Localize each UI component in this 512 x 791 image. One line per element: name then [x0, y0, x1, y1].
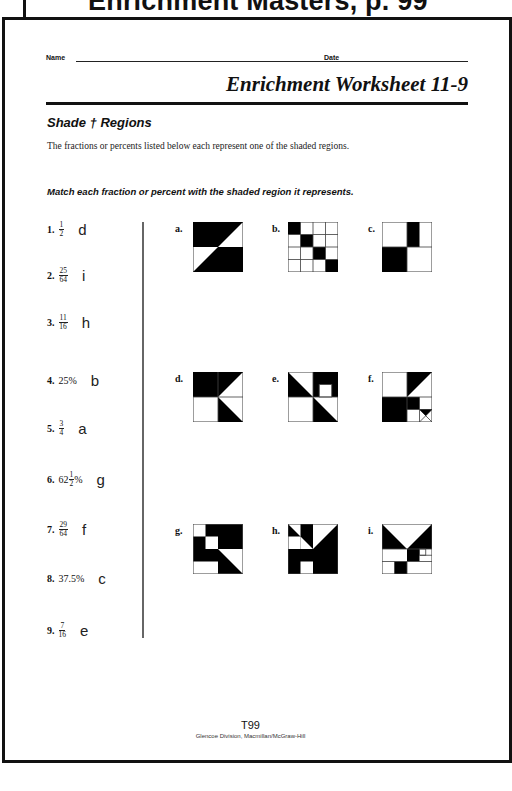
shaded-square-g [193, 524, 243, 574]
page-number: T99 [0, 719, 501, 731]
region-d: d. [175, 370, 255, 430]
problem-value: 2964 [59, 521, 69, 538]
region-f: f. [368, 370, 448, 430]
region-b: b. [272, 220, 352, 280]
problem-value: 6212% [59, 471, 83, 488]
publisher-credit: Glencoe Division, Macmillan/McGraw-Hill [0, 733, 501, 739]
region-e: e. [272, 370, 352, 430]
problem-item: 9. 716 e [47, 620, 88, 640]
shaded-square-i [382, 524, 432, 574]
fraction: 34 [59, 420, 65, 437]
fraction: 2564 [59, 267, 69, 284]
frame-tab-edge [23, 0, 26, 17]
answer: e [80, 622, 88, 639]
problem-value: 2564 [59, 267, 69, 284]
problem-number: 2. [47, 270, 55, 281]
name-label: Name [46, 54, 65, 61]
shaded-square-d [193, 372, 243, 422]
region-a: a. [175, 220, 255, 280]
problem-item: 1. 12 d [47, 219, 87, 239]
answer: g [97, 471, 105, 488]
problem-item: 4. 25% b [47, 370, 99, 390]
name-field-line[interactable] [76, 61, 360, 62]
problem-number: 5. [47, 423, 55, 434]
answer: i [82, 267, 85, 284]
section-title: Shade † Regions [47, 115, 152, 130]
date-label: Date [324, 54, 339, 61]
problem-item: 7. 2964 f [47, 519, 86, 539]
shaded-square-f [382, 372, 432, 422]
region-label: e. [272, 373, 279, 384]
problem-number: 4. [47, 375, 55, 386]
problem-value: 1116 [59, 314, 68, 331]
region-i: i. [368, 522, 448, 582]
problem-number: 3. [47, 317, 55, 328]
title-rule-divider [46, 102, 468, 105]
name-date-row: Name Date [46, 52, 468, 66]
answer: b [91, 372, 99, 389]
region-h: h. [272, 522, 352, 582]
fraction: 716 [59, 622, 67, 639]
shaded-square-h [288, 524, 338, 574]
problem-number: 9. [47, 625, 55, 636]
answer: a [78, 420, 86, 437]
problem-value: 37.5% [59, 573, 85, 584]
problem-number: 8. [47, 573, 55, 584]
problem-value: 25% [59, 375, 77, 386]
region-label: g. [175, 525, 183, 536]
column-divider [142, 222, 144, 638]
problem-item: 5. 34 a [47, 418, 87, 438]
problem-number: 1. [47, 224, 55, 235]
region-label: f. [368, 373, 374, 384]
problem-value: 716 [59, 622, 67, 639]
shaded-square-c [382, 222, 432, 272]
fraction: 2964 [59, 521, 69, 538]
problem-value: 12 [59, 221, 65, 238]
fraction: 12 [59, 221, 65, 238]
intro-text: The fractions or percents listed below e… [47, 140, 377, 153]
instructions-text: Match each fraction or percent with the … [47, 186, 357, 197]
region-label: h. [272, 525, 280, 536]
shaded-square-e [288, 372, 338, 422]
problem-item: 2. 2564 i [47, 265, 85, 285]
problem-item: 3. 1116 h [47, 312, 90, 332]
date-field-line[interactable] [348, 61, 468, 62]
problem-number: 7. [47, 524, 55, 535]
problem-item: 6. 6212% g [47, 469, 105, 489]
problem-value: 34 [59, 420, 65, 437]
region-label: d. [175, 373, 183, 384]
region-label: b. [272, 223, 280, 234]
answer: d [78, 221, 86, 238]
shaded-square-b [288, 222, 338, 272]
answer: h [82, 314, 90, 331]
region-g: g. [175, 522, 255, 582]
fraction: 1116 [59, 314, 68, 331]
worksheet-title: Enrichment Worksheet 11-9 [226, 72, 468, 97]
shaded-square-a [193, 222, 243, 272]
page-header-title: Enrichment Masters, p. 99 [88, 0, 428, 17]
region-c: c. [368, 220, 448, 280]
region-label: a. [175, 223, 183, 234]
answer: c [98, 570, 106, 587]
region-label: i. [368, 525, 373, 536]
region-label: c. [368, 223, 375, 234]
problem-number: 6. [47, 474, 55, 485]
answer: f [82, 521, 86, 538]
problem-item: 8. 37.5% c [47, 568, 106, 588]
